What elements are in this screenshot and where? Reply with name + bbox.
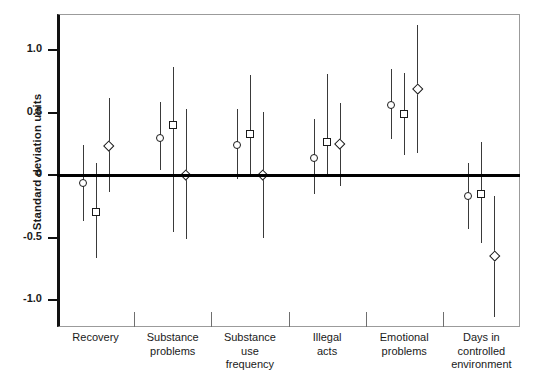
data-point-marker-circle	[156, 134, 164, 142]
x-axis-label-line: controlled	[435, 345, 528, 359]
y-tick-mark	[48, 49, 60, 51]
x-axis-label-line: frequency	[203, 358, 296, 372]
data-point-marker-square	[246, 130, 254, 138]
data-point-marker-square	[169, 121, 177, 129]
y-tick-label: -1.0	[0, 292, 42, 304]
data-point-marker-square	[92, 208, 100, 216]
x-tick-mark	[134, 312, 135, 327]
y-tick-mark	[48, 237, 60, 239]
error-bar	[173, 67, 174, 232]
error-bar	[250, 75, 251, 175]
data-point-marker-circle	[310, 154, 318, 162]
y-tick-label: 1.0	[0, 42, 42, 54]
data-point-marker-circle	[464, 192, 472, 200]
x-axis-label-line: Days in	[435, 331, 528, 345]
y-tick-label: 0.5	[0, 105, 42, 117]
x-axis-label-line: environment	[435, 358, 528, 372]
x-tick-mark	[366, 312, 367, 327]
plot-area	[57, 14, 520, 327]
chart-figure: Standard deviation units 1.00.50-0.5-1.0…	[0, 0, 534, 384]
data-point-marker-square	[323, 138, 331, 146]
data-point-marker-square	[400, 110, 408, 118]
y-tick-label: -0.5	[0, 230, 42, 242]
x-tick-mark	[443, 312, 444, 327]
y-tick-mark	[48, 112, 60, 114]
data-point-marker-circle	[79, 179, 87, 187]
x-tick-mark	[289, 312, 290, 327]
error-bar	[327, 74, 328, 175]
zero-reference-line	[57, 174, 520, 177]
x-axis-category-label: Days incontrolledenvironment	[435, 331, 528, 372]
x-tick-mark	[211, 312, 212, 327]
data-point-marker-square	[477, 190, 485, 198]
y-tick-label: 0	[0, 167, 42, 179]
y-tick-mark	[48, 299, 60, 301]
